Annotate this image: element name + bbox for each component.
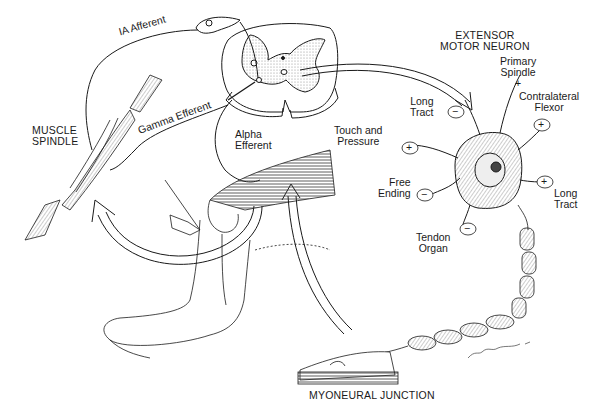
- leg: [104, 150, 335, 358]
- label-myoneural-junction: MYONEURAL JUNCTION: [309, 390, 435, 401]
- label-long-tract-right: Long Tract: [554, 188, 578, 210]
- muscle-spindle: [25, 75, 162, 240]
- label-extensor-line2: MOTOR NEURON: [440, 41, 530, 52]
- artist-signature: [468, 342, 530, 358]
- label-long-tract-left: Long Tract: [410, 96, 434, 118]
- myelinated-axon: [360, 205, 536, 356]
- label-free-ending-line2: Ending: [378, 188, 411, 199]
- reflex-arc-diagram: IA Afferent Gamma Efferent MUSCLE SPINDL…: [0, 0, 599, 409]
- sign-tendon-organ: −: [464, 223, 470, 234]
- sign-touch-pressure: +: [406, 142, 412, 153]
- dorsal-root-ganglion: [196, 17, 240, 33]
- label-touch-pressure: Touch and Pressure: [334, 125, 382, 147]
- label-extensor-motor-neuron: EXTENSOR MOTOR NEURON: [440, 30, 530, 52]
- sign-free-ending: −: [421, 189, 427, 200]
- sign-primary-spindle: +: [500, 78, 536, 89]
- label-alpha-line2: Efferent: [235, 140, 272, 151]
- label-primary-spindle: Primary Spindle +: [500, 56, 536, 89]
- label-muscle-spindle: MUSCLE SPINDLE: [32, 125, 78, 147]
- label-touch-line2: Pressure: [334, 136, 382, 147]
- label-tendon-line2: Organ: [416, 243, 450, 254]
- sign-long-tract-right: +: [541, 176, 547, 187]
- sign-contralateral-flexor: +: [538, 119, 544, 130]
- label-long-tract-left-line2: Tract: [410, 107, 434, 118]
- label-contralateral-line2: Flexor: [519, 102, 579, 113]
- label-muscle-spindle-line2: SPINDLE: [32, 136, 78, 147]
- label-tendon-organ: Tendon Organ: [416, 232, 450, 254]
- label-long-tract-right-line2: Tract: [554, 199, 578, 210]
- label-free-ending: Free Ending: [378, 177, 411, 199]
- label-contralateral-flexor: Contralateral Flexor: [519, 91, 579, 113]
- label-alpha-efferent: Alpha Efferent: [235, 129, 272, 151]
- myoneural-junction: [298, 352, 398, 384]
- spinal-cord: [222, 24, 338, 118]
- sign-long-tract-left: −: [452, 106, 458, 117]
